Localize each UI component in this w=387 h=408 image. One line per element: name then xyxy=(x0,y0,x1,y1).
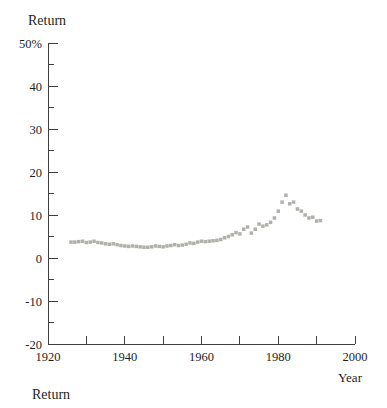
data-point xyxy=(280,200,284,204)
data-point xyxy=(127,245,130,249)
x-axis-title: Year xyxy=(338,370,362,386)
data-point xyxy=(227,235,231,239)
data-point xyxy=(253,227,257,231)
data-point xyxy=(234,231,238,235)
data-point xyxy=(200,239,204,243)
data-point xyxy=(292,200,296,204)
data-point xyxy=(181,243,185,247)
data-point xyxy=(242,227,246,231)
data-point xyxy=(85,241,89,245)
y-axis-title: Return xyxy=(28,13,66,29)
data-point xyxy=(138,245,142,249)
data-point xyxy=(123,244,127,248)
data-point xyxy=(273,216,277,220)
y-tick-label: 10 xyxy=(30,209,43,223)
data-point xyxy=(77,240,81,244)
data-point xyxy=(215,239,219,243)
data-point xyxy=(119,244,123,248)
data-point xyxy=(269,221,273,225)
data-point xyxy=(284,193,288,197)
data-point xyxy=(73,240,77,244)
data-point xyxy=(307,216,311,220)
data-point xyxy=(303,213,307,217)
data-point xyxy=(300,209,304,213)
data-point xyxy=(192,242,196,246)
data-point xyxy=(296,207,300,211)
data-point xyxy=(315,219,319,223)
data-point xyxy=(311,215,315,219)
data-point xyxy=(204,240,208,244)
y-tick-label: 40 xyxy=(30,80,43,94)
data-point xyxy=(257,222,261,226)
data-point xyxy=(184,242,188,246)
bottom-caption: Return xyxy=(32,387,70,403)
data-point xyxy=(223,236,227,240)
y-tick-label: -10 xyxy=(25,295,42,309)
x-tick-label: 1960 xyxy=(189,350,214,364)
data-point xyxy=(154,244,158,248)
data-point xyxy=(207,239,211,243)
data-point xyxy=(288,202,292,206)
y-tick-label: 50% xyxy=(19,37,42,51)
data-point xyxy=(92,239,96,243)
data-point xyxy=(115,243,119,247)
y-tick-label: 30 xyxy=(30,123,43,137)
data-point xyxy=(196,240,200,244)
data-point xyxy=(161,245,165,249)
data-point xyxy=(211,239,215,243)
data-point xyxy=(111,242,115,246)
data-point xyxy=(96,241,100,245)
data-point xyxy=(173,243,177,247)
data-point xyxy=(104,242,108,246)
data-point xyxy=(250,231,254,235)
x-tick-label: 1980 xyxy=(266,350,291,364)
data-point xyxy=(188,241,192,245)
data-point xyxy=(261,224,265,228)
data-point xyxy=(88,240,92,244)
data-point xyxy=(246,225,250,229)
data-point xyxy=(219,238,223,242)
data-point xyxy=(165,244,169,248)
data-point xyxy=(277,209,281,213)
y-tick-label: 0 xyxy=(36,252,42,266)
data-point xyxy=(69,240,73,244)
data-point xyxy=(135,245,139,249)
data-point xyxy=(238,232,242,236)
x-tick-label: 1940 xyxy=(112,350,137,364)
x-tick-label: 2000 xyxy=(343,350,368,364)
data-point xyxy=(177,244,181,248)
y-tick-label: 20 xyxy=(30,166,43,180)
data-point xyxy=(150,245,154,249)
return-scatter-chart: 50%403020100-10-2019201940196019802000 xyxy=(0,0,387,408)
data-point xyxy=(81,239,85,243)
data-point xyxy=(230,233,234,237)
data-point xyxy=(169,244,173,248)
data-point xyxy=(265,223,269,227)
data-point xyxy=(146,246,150,250)
data-point xyxy=(108,242,112,246)
data-point xyxy=(142,246,146,250)
data-point xyxy=(100,241,104,245)
chart-page: 50%403020100-10-2019201940196019802000 R… xyxy=(0,0,387,408)
data-point xyxy=(131,244,135,248)
x-tick-label: 1920 xyxy=(36,350,61,364)
data-point xyxy=(319,219,323,223)
data-point xyxy=(158,245,162,249)
